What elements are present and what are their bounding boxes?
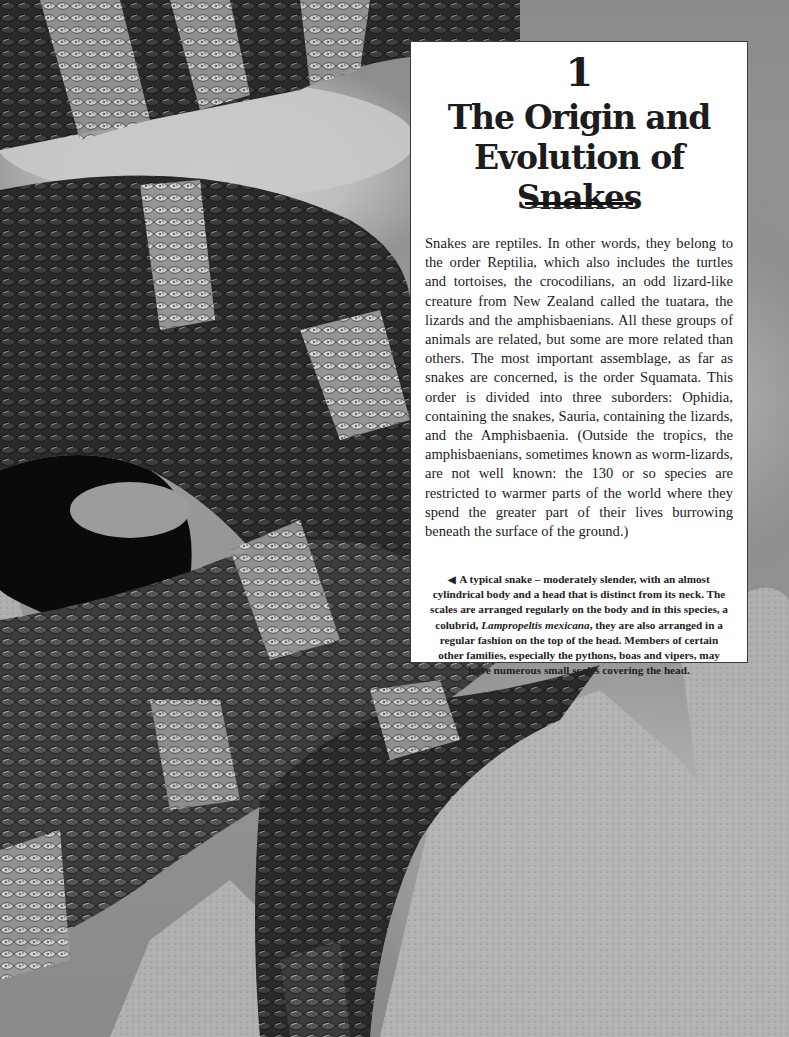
chapter-text-panel: 1 The Origin and Evolution of Snakes Sna… [410, 41, 748, 663]
title-divider-thick [525, 202, 633, 205]
photo-caption: ◀A typical snake – moderately slender, w… [429, 572, 729, 678]
title-divider-thin [525, 207, 633, 208]
chapter-number: 1 [411, 50, 747, 94]
body-paragraph: Snakes are reptiles. In other words, the… [425, 234, 733, 541]
chapter-title: The Origin and Evolution of Snakes [411, 98, 747, 218]
caption-species-name: Lampropeltis mexicana [481, 619, 589, 631]
caption-pointer-icon: ◀ [448, 574, 456, 585]
